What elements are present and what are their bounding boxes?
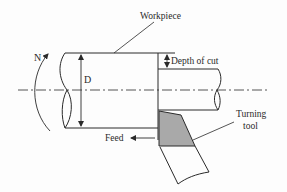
- turning-tool-shank: [160, 146, 209, 184]
- turning-tool-label-line1: Turning: [236, 109, 267, 119]
- rotation-label: N: [34, 52, 41, 63]
- feed-label: Feed: [105, 133, 124, 143]
- rotation-arrow: [35, 54, 50, 131]
- workpiece-label: Workpiece: [140, 11, 181, 21]
- diameter-label: D: [84, 74, 91, 85]
- turning-tool-leader: [193, 122, 234, 140]
- turning-tool-insert: [159, 111, 195, 146]
- workpiece-leader: [114, 22, 154, 53]
- depth-of-cut-label: Depth of cut: [171, 56, 219, 66]
- reduced-shaft: [158, 69, 221, 110]
- diagram-svg: D Depth of cut Workpiece N Turning tool …: [0, 0, 287, 192]
- workpiece-body: [60, 53, 175, 140]
- turning-tool-label-line2: tool: [243, 121, 258, 131]
- turning-diagram: D Depth of cut Workpiece N Turning tool …: [0, 0, 287, 192]
